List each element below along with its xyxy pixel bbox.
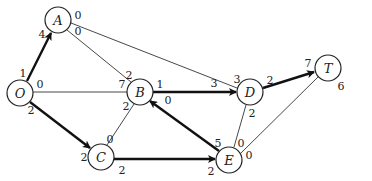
node-O: O [7, 80, 33, 106]
label-ET-at-E: 0 [246, 149, 253, 162]
edge-E-B [150, 101, 219, 151]
label-OB-at-B: 7 [119, 78, 126, 91]
label-OA-at-A: 4 [39, 28, 46, 41]
label-DT-at-T: 7 [305, 57, 312, 70]
label-BC-at-C: 0 [107, 133, 114, 146]
label-AD-at-A: 0 [75, 9, 82, 22]
label-CE-at-E: 2 [208, 165, 215, 178]
label-BC-at-B: 2 [123, 100, 130, 113]
node-D-label: D [244, 85, 256, 100]
edge-O-C [30, 102, 90, 148]
node-A-label: A [52, 13, 62, 28]
label-AD-at-D: 3 [234, 73, 241, 86]
node-T: T [315, 55, 341, 81]
node-E: E [216, 147, 242, 173]
node-T-label: T [324, 61, 334, 76]
label-DE-at-E: 0 [238, 137, 245, 150]
label-EB-at-E: 5 [215, 137, 222, 150]
label-BD-at-D: 3 [211, 77, 218, 90]
label-EB-at-B: 0 [165, 94, 172, 107]
node-A: A [45, 7, 71, 33]
label-CE-at-C: 2 [119, 164, 126, 177]
node-O-label: O [15, 86, 26, 101]
label-DT-at-D: 2 [267, 74, 274, 87]
label-OC-at-C: 2 [81, 151, 88, 164]
flow-network-diagram: O A B C D E T 1 4 0 7 2 2 0 2 0 3 1 3 2 … [0, 0, 372, 181]
node-C-label: C [96, 150, 106, 165]
label-BD-at-B: 1 [157, 78, 164, 91]
label-OC-at-O: 2 [28, 104, 35, 117]
node-C: C [88, 144, 114, 170]
node-B: B [127, 79, 153, 105]
label-DE-at-D: 2 [249, 107, 256, 120]
edge-A-B [67, 30, 131, 82]
node-B-label: B [134, 85, 145, 100]
node-E-label: E [223, 153, 234, 168]
label-AB-at-B: 2 [126, 69, 133, 82]
label-AB-at-A: 0 [75, 25, 82, 38]
node-D: D [237, 79, 263, 105]
label-ET-at-T: 6 [338, 80, 345, 93]
label-OA-at-O: 1 [20, 67, 27, 80]
label-OB-at-O: 0 [37, 78, 44, 91]
